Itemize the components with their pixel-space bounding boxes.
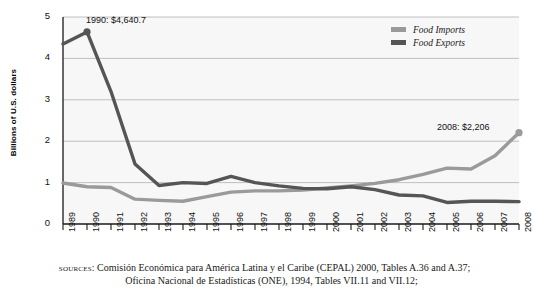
y-axis-tick-3: 3 — [30, 93, 50, 104]
legend-item-food-imports: Food Imports — [391, 24, 465, 35]
x-axis-tick-1999: 1999 — [307, 212, 317, 232]
sources-text-2: Oficina Nacional de Estadísticas (ONE), … — [111, 275, 417, 286]
sources-kicker: sources: — [59, 263, 95, 273]
sources-line-1: sources: Comisión Económica para América… — [0, 262, 529, 275]
y-axis-tick-5: 5 — [30, 10, 50, 21]
x-axis-tick-2008: 2008 — [523, 212, 533, 232]
x-axis-tick-1989: 1989 — [67, 212, 77, 232]
x-axis-tick-2000: 2000 — [331, 212, 341, 232]
x-axis-tick-1997: 1997 — [259, 212, 269, 232]
chart-legend: Food Imports Food Exports — [391, 24, 465, 50]
x-axis-tick-2003: 2003 — [403, 212, 413, 232]
x-axis-tick-1990: 1990 — [91, 212, 101, 232]
legend-label-food-imports: Food Imports — [413, 25, 465, 35]
x-axis-tick-1995: 1995 — [211, 212, 221, 232]
x-axis-tick-1991: 1991 — [115, 212, 125, 232]
y-axis-tick-1: 1 — [30, 176, 50, 187]
legend-swatch-food-imports — [391, 27, 406, 32]
x-axis-tick-2004: 2004 — [427, 212, 437, 232]
x-axis-tick-1994: 1994 — [187, 212, 197, 232]
legend-label-food-exports: Food Exports — [413, 38, 465, 48]
x-axis-tick-1993: 1993 — [163, 212, 173, 232]
x-axis-tick-2005: 2005 — [451, 212, 461, 232]
x-axis-tick-2001: 2001 — [355, 212, 365, 232]
y-axis-tick-2: 2 — [30, 134, 50, 145]
y-axis-tick-0: 0 — [30, 217, 50, 228]
x-axis-tick-2002: 2002 — [379, 212, 389, 232]
annotation-peak-1990: 1990: $4,640.7 — [86, 15, 146, 25]
sources-note: sources: Comisión Económica para América… — [0, 262, 529, 287]
y-axis-tick-4: 4 — [30, 51, 50, 62]
legend-swatch-food-exports — [391, 40, 406, 45]
x-axis-tick-2007: 2007 — [499, 212, 509, 232]
sources-line-2: Oficina Nacional de Estadísticas (ONE), … — [0, 275, 529, 288]
x-axis-tick-2006: 2006 — [475, 212, 485, 232]
sources-text-1: Comisión Económica para América Latina y… — [97, 262, 470, 273]
x-axis-tick-1992: 1992 — [139, 212, 149, 232]
x-axis-tick-1998: 1998 — [283, 212, 293, 232]
x-axis-tick-1996: 1996 — [235, 212, 245, 232]
annotation-last-import-2008: 2008: $2,206 — [437, 122, 490, 132]
legend-item-food-exports: Food Exports — [391, 37, 465, 48]
